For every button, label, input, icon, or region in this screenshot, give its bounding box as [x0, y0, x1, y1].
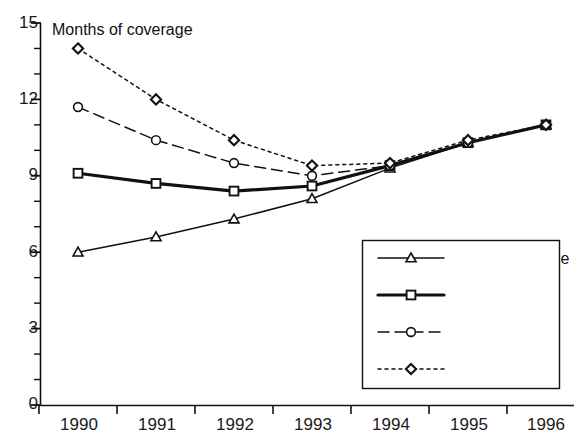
y-major-ticks — [31, 23, 41, 405]
series-1 — [74, 120, 551, 195]
marker-circle — [308, 171, 317, 180]
marker-square — [152, 179, 161, 188]
data-series-layer — [73, 43, 551, 256]
marker-square — [230, 187, 239, 196]
marker-circle — [74, 103, 83, 112]
marker-diamond — [151, 94, 161, 104]
plot-area — [0, 0, 574, 447]
marker-circle — [230, 159, 239, 168]
marker-diamond — [229, 135, 239, 145]
x-ticks — [39, 405, 507, 414]
legend-frame — [363, 241, 560, 389]
marker-square — [308, 182, 317, 191]
marker-diamond — [307, 161, 317, 171]
marker-circle — [407, 328, 416, 337]
marker-diamond — [73, 43, 83, 53]
marker-circle — [152, 136, 161, 145]
series-3 — [73, 43, 551, 170]
marker-square — [74, 169, 83, 178]
chart-container: Months of coverage 15 12 9 6 3 0 1990 19… — [0, 0, 574, 447]
legend-box — [363, 241, 560, 389]
series-line — [78, 48, 546, 165]
marker-square — [407, 291, 416, 300]
